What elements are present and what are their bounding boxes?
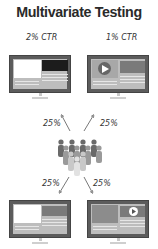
monitor-base: [32, 242, 48, 244]
image-panel: [42, 206, 67, 216]
split-label-top-right: 25%: [100, 119, 118, 128]
monitor-stand: [117, 238, 120, 241]
split-label-bottom-left: 25%: [42, 179, 60, 188]
monitor-stand: [39, 238, 42, 241]
text-block: [14, 205, 41, 223]
image-panel: [92, 205, 118, 223]
split-label-top-left: 25%: [43, 119, 61, 128]
screen: [91, 204, 145, 234]
monitor-base: [110, 242, 126, 244]
play-icon: [132, 209, 136, 214]
monitor-variant-d: [87, 200, 149, 238]
screen: [13, 204, 67, 234]
people-group-icon: [55, 139, 105, 177]
monitor-variant-c: [9, 200, 71, 238]
split-label-bottom-right: 25%: [93, 179, 111, 188]
